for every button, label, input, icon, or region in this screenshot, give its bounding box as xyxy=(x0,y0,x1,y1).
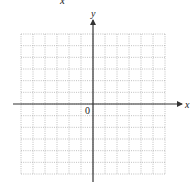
coordinate-plane: x y x 0 xyxy=(0,0,196,186)
top-cropped-label: x xyxy=(59,0,65,6)
x-axis-label: x xyxy=(184,99,190,110)
y-axis-label: y xyxy=(90,8,96,19)
origin-label: 0 xyxy=(85,105,90,116)
